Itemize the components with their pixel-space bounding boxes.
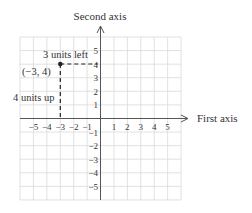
- x-tick-label: −3: [55, 122, 65, 132]
- x-tick-label: 5: [165, 122, 170, 132]
- y-tick-label: 2: [94, 87, 99, 97]
- annotation-vertical: 4 units up: [13, 92, 54, 103]
- x-tick-label: 2: [125, 122, 130, 132]
- y-tick-label: −4: [88, 168, 98, 178]
- y-tick-label: −5: [88, 182, 98, 192]
- y-tick-label: 3: [94, 73, 99, 83]
- y-tick-label: 1: [94, 100, 99, 110]
- x-tick-labels: −5−4−3−2−112345: [29, 122, 171, 132]
- x-tick-label: −5: [29, 122, 39, 132]
- annotation-horizontal: 3 units left: [43, 49, 88, 60]
- x-tick-label: 3: [139, 122, 144, 132]
- x-axis-label: First axis: [197, 112, 238, 124]
- x-axis: [20, 115, 188, 122]
- y-axis: [97, 26, 104, 200]
- y-tick-label: −2: [88, 141, 98, 151]
- x-tick-label: −2: [69, 122, 79, 132]
- y-tick-label: 4: [94, 60, 99, 70]
- coordinate-plane: Second axis First axis −5−4−3−2−112345 5…: [0, 0, 252, 213]
- x-tick-label: 1: [112, 122, 117, 132]
- y-tick-label: −3: [88, 155, 98, 165]
- x-tick-label: −4: [42, 122, 52, 132]
- y-axis-label: Second axis: [74, 10, 127, 22]
- point-label: (−3, 4): [22, 66, 51, 78]
- y-tick-label: −1: [88, 128, 98, 138]
- x-tick-label: 4: [152, 122, 157, 132]
- point-marker: [58, 62, 63, 67]
- y-tick-label: 5: [94, 46, 99, 56]
